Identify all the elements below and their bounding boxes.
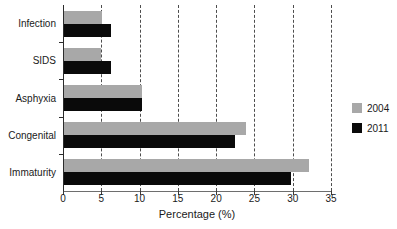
- x-tick-label: 30: [278, 193, 308, 204]
- legend-item: 2004: [352, 100, 389, 116]
- bar-2004-immaturity: [64, 159, 309, 172]
- bar-2011-sids: [64, 61, 111, 74]
- bar-2011-infection: [64, 24, 111, 37]
- legend: 20042011: [352, 100, 389, 140]
- y-axis-category-label: SIDS: [33, 55, 56, 66]
- bar-2004-asphyxia: [64, 85, 142, 98]
- y-axis-category-label: Asphyxia: [15, 93, 56, 104]
- legend-item: 2011: [352, 120, 389, 136]
- x-tick-label: 10: [125, 193, 155, 204]
- x-axis-title: Percentage (%): [63, 208, 331, 221]
- legend-label: 2004: [367, 103, 389, 114]
- x-tick-label: 20: [201, 193, 231, 204]
- gridline: [331, 5, 332, 191]
- y-axis-category-labels: InfectionSIDSAsphyxiaCongenitalImmaturit…: [0, 5, 60, 191]
- y-tick: [59, 117, 63, 118]
- y-tick: [59, 154, 63, 155]
- y-tick: [59, 42, 63, 43]
- bar-2004-infection: [64, 11, 102, 24]
- x-tick-label: 5: [86, 193, 116, 204]
- x-tick-label: 35: [316, 193, 346, 204]
- y-axis-category-label: Infection: [18, 18, 56, 29]
- legend-swatch-icon: [352, 103, 362, 113]
- x-tick-label: 25: [239, 193, 269, 204]
- legend-label: 2011: [367, 123, 389, 134]
- bar-2004-congenital: [64, 122, 246, 135]
- y-axis-category-label: Immaturity: [9, 167, 56, 178]
- bar-2011-congenital: [64, 135, 235, 148]
- x-tick-label: 0: [48, 193, 78, 204]
- plot-area: [63, 5, 331, 191]
- x-axis-line: [63, 191, 331, 192]
- bar-2004-sids: [64, 48, 101, 61]
- bar-2011-immaturity: [64, 172, 291, 185]
- y-tick: [59, 79, 63, 80]
- bar-2011-asphyxia: [64, 98, 142, 111]
- legend-swatch-icon: [352, 123, 362, 133]
- bar-chart: InfectionSIDSAsphyxiaCongenitalImmaturit…: [0, 0, 397, 229]
- x-tick-label: 15: [163, 193, 193, 204]
- y-axis-category-label: Congenital: [8, 130, 56, 141]
